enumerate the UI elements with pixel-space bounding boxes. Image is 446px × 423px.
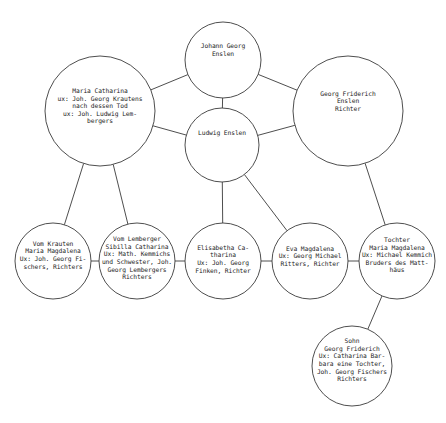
node-text: Johann Georg Enslen — [201, 42, 245, 57]
node-text: Eva Magdalena Ux: Georg Michael Ritters,… — [279, 245, 342, 268]
node-label-vom_lemberger: Vom Lemberger Sibilla Catharina Ux: Math… — [97, 220, 177, 296]
node-text: Elisabetha Ca- tharina Ux: Joh. Georg Fi… — [195, 244, 250, 274]
edge-maria_catharina-vom_lemberger — [113, 164, 128, 224]
figure-caption-faint — [198, 412, 248, 416]
edge-ludwig-georg_friderich_senior — [258, 125, 295, 135]
node-text: Maria Catharina ux: Joh. Georg Krautens … — [58, 87, 143, 125]
node-label-maria_catharina: Maria Catharina ux: Joh. Georg Krautens … — [43, 51, 157, 161]
node-label-vom_krauten: Vom Krauten Maria Magdalena Ux: Joh. Geo… — [13, 217, 93, 293]
edge-ludwig-maria_catharina — [153, 126, 186, 135]
edge-georg_friderich_senior-tochter — [365, 163, 385, 225]
edge-maria_catharina-vom_krauten — [64, 164, 83, 225]
node-text: Georg Friderich Enslen Richter — [320, 90, 375, 113]
node-label-eva: Eva Magdalena Ux: Georg Michael Ritters,… — [270, 218, 350, 294]
node-text: Ludwig Enslen — [198, 129, 246, 137]
node-text: Vom Lemberger Sibilla Catharina Ux: Math… — [102, 235, 172, 281]
node-text: Vom Krauten Maria Magdalena Ux: Joh. Geo… — [20, 240, 86, 270]
node-label-tochter: Tochter Maria Magdalena Ux: Michael Kemm… — [357, 217, 437, 293]
node-label-johann: Johann Georg Enslen — [183, 12, 263, 88]
node-label-sohn: Sohn Georg Friderich Ux: Catharina Bar- … — [310, 320, 394, 400]
node-text: Tochter Maria Magdalena Ux: Michael Kemm… — [362, 236, 432, 274]
node-label-georg_friderich_senior: Georg Friderich Enslen Richter — [291, 46, 405, 156]
node-label-elisabetha: Elisabetha Ca- tharina Ux: Joh. Georg Fi… — [183, 221, 263, 297]
node-text: Sohn Georg Friderich Ux: Catharina Bar- … — [317, 337, 387, 383]
node-label-ludwig: Ludwig Enslen — [183, 96, 261, 170]
